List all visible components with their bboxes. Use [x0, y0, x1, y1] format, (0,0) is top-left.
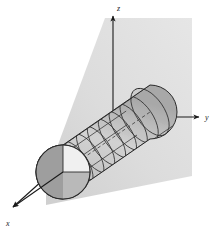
figure-container: z y x [0, 0, 215, 231]
end-cap-dark-quadrant [36, 145, 63, 199]
y-axis-label: y [204, 113, 209, 122]
x-axis-label: x [5, 219, 10, 228]
three-d-cylinder-figure: z y x [0, 0, 215, 231]
z-axis-label: z [116, 4, 121, 13]
